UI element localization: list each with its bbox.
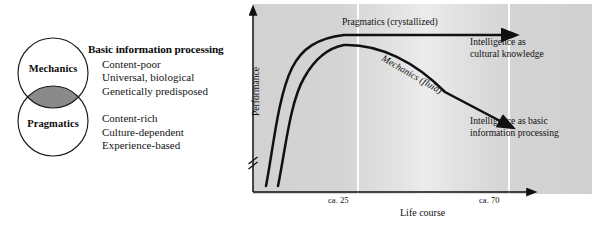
trait-item: Content-poor bbox=[102, 58, 238, 72]
venn-panel: Mechanics Pragmatics Basic information p… bbox=[0, 0, 240, 227]
chart-vector-layer bbox=[240, 0, 594, 227]
annotation-cultural-knowledge: Intelligence as cultural knowledge bbox=[470, 36, 544, 59]
trait-item: Content-rich bbox=[102, 112, 238, 126]
x-tick-label-ca-70: ca. 70 bbox=[479, 195, 500, 205]
pragmatics-trait-list: Content-rich Culture-dependent Experienc… bbox=[88, 112, 238, 153]
venn-diagram: Mechanics Pragmatics bbox=[14, 36, 92, 158]
mechanics-trait-list: Content-poor Universal, biological Genet… bbox=[88, 58, 238, 99]
trait-item: Culture-dependent bbox=[102, 126, 238, 140]
trait-item: Genetically predisposed bbox=[102, 85, 238, 99]
x-tick-label-ca-25: ca. 25 bbox=[328, 195, 349, 205]
trait-item: Experience-based bbox=[102, 139, 238, 153]
lifespan-intelligence-figure: Mechanics Pragmatics Basic information p… bbox=[0, 0, 594, 227]
annotation-basic-information-processing: Intelligence as basic information proces… bbox=[470, 115, 559, 138]
performance-lifespan-chart: Pragmatics (crystallized) Mechanics (flu… bbox=[240, 0, 594, 227]
y-axis-label: Performance bbox=[250, 57, 261, 127]
annotation-line: cultural knowledge bbox=[470, 48, 544, 60]
venn-svg bbox=[14, 36, 92, 158]
annotation-pragmatics-curve: Pragmatics (crystallized) bbox=[342, 16, 438, 28]
annotation-line: Intelligence as basic bbox=[470, 115, 559, 127]
annotation-line: Intelligence as bbox=[470, 36, 544, 48]
trait-text-block: Basic information processing Content-poo… bbox=[88, 43, 238, 153]
annotation-line: information processing bbox=[470, 127, 559, 139]
venn-label-mechanics: Mechanics bbox=[14, 63, 92, 74]
heading-basic-information-processing: Basic information processing bbox=[88, 43, 238, 57]
venn-label-pragmatics: Pragmatics bbox=[14, 118, 92, 129]
x-axis-label: Life course bbox=[400, 207, 445, 218]
trait-item: Universal, biological bbox=[102, 71, 238, 85]
